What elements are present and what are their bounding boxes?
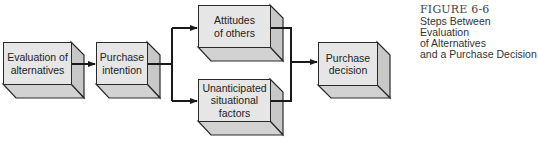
caption-line-3: and a Purchase Decision (420, 49, 538, 60)
node-evaluation-of-alternatives: Evaluation of alternatives (3, 42, 72, 85)
node-purchase-intention: Purchase intention (96, 42, 148, 85)
node-unanticipated-situational-factors: Unanticipated situational factors (198, 79, 271, 122)
figure-caption: FIGURE 6-6 Steps Between Evaluation of A… (420, 4, 538, 60)
node-attitudes-of-others: Attitudes of others (198, 5, 271, 48)
flowchart-diagram: Evaluation of alternatives Purchase inte… (0, 0, 538, 143)
node-purchase-decision: Purchase decision (318, 42, 378, 86)
caption-line-1: Steps Between Evaluation (420, 16, 538, 38)
